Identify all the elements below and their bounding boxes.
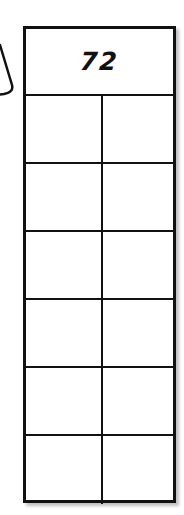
cell-right[interactable]	[103, 300, 173, 366]
table-rows	[26, 96, 173, 500]
cell-left[interactable]	[26, 300, 103, 366]
table-row	[26, 164, 173, 232]
table-row	[26, 436, 173, 504]
cell-right[interactable]	[103, 368, 173, 434]
cell-left[interactable]	[26, 436, 103, 504]
table-row	[26, 368, 173, 436]
cell-left[interactable]	[26, 368, 103, 434]
partial-shape-outline	[0, 40, 20, 100]
table-header-cell: 72	[26, 29, 173, 96]
table-row	[26, 96, 173, 164]
number-bond-table: 72	[23, 26, 176, 503]
cell-left[interactable]	[26, 96, 103, 162]
cell-right[interactable]	[103, 96, 173, 162]
cell-right[interactable]	[103, 436, 173, 504]
cell-left[interactable]	[26, 164, 103, 230]
cell-right[interactable]	[103, 164, 173, 230]
header-value: 72	[79, 47, 120, 76]
table-row	[26, 300, 173, 368]
cell-left[interactable]	[26, 232, 103, 298]
table-row	[26, 232, 173, 300]
cell-right[interactable]	[103, 232, 173, 298]
